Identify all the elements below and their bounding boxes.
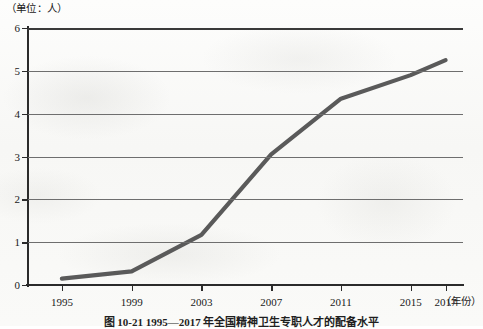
x-tick-2003 xyxy=(201,285,202,291)
x-tick-label-2003: 2003 xyxy=(190,296,212,308)
gridline-y-6 xyxy=(27,28,463,30)
x-tick-label-2007: 2007 xyxy=(260,296,282,308)
y-tick-label-1: 1 xyxy=(15,237,21,248)
y-tick-label-5: 5 xyxy=(15,65,21,76)
x-tick-1995 xyxy=(62,285,63,291)
x-tick-1999 xyxy=(132,285,133,291)
y-tick-0 xyxy=(22,285,28,286)
x-tick-label-1995: 1995 xyxy=(51,296,73,308)
y-tick-3 xyxy=(22,157,28,158)
y-tick-2 xyxy=(22,199,28,200)
y-tick-label-4: 4 xyxy=(15,108,21,119)
x-tick-label-2015: 2015 xyxy=(400,296,422,308)
x-axis-title: （年份） xyxy=(441,296,481,308)
y-tick-4 xyxy=(22,114,28,115)
x-tick-2017 xyxy=(446,285,447,291)
gridline-y-4 xyxy=(27,114,463,115)
x-tick-2011 xyxy=(341,285,342,291)
x-tick-2015 xyxy=(411,285,412,291)
y-tick-label-0: 0 xyxy=(15,280,21,291)
figure-caption: 图 10-21 1995—2017 年全国精神卫生专职人才的配备水平 xyxy=(0,316,483,329)
gridline-y-1 xyxy=(27,242,463,243)
y-tick-label-2: 2 xyxy=(15,194,21,205)
y-tick-6 xyxy=(22,28,28,29)
plot-area: 01234561995199920032007201120152017 xyxy=(27,28,463,285)
y-tick-5 xyxy=(22,71,28,72)
gridline-y-5 xyxy=(27,71,463,72)
series-line-精神卫生专职人才配备水平 xyxy=(62,60,446,278)
y-tick-1 xyxy=(22,242,28,243)
y-axis-unit-label: （单位：人） xyxy=(6,2,67,16)
y-tick-label-3: 3 xyxy=(15,151,21,162)
x-tick-2007 xyxy=(271,285,272,291)
gridline-y-3 xyxy=(27,157,463,158)
gridline-y-2 xyxy=(27,199,463,200)
x-tick-label-2011: 2011 xyxy=(330,296,352,308)
x-tick-label-1999: 1999 xyxy=(121,296,143,308)
y-tick-label-6: 6 xyxy=(15,23,21,34)
